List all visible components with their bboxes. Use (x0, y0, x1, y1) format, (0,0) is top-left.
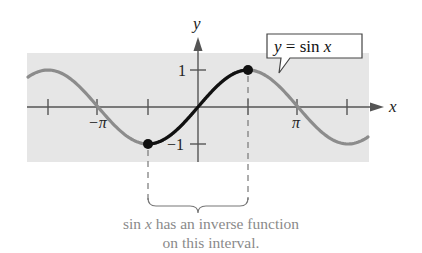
svg-text:y = sin x: y = sin x (272, 37, 332, 56)
caption-line1-rest: has an inverse function (152, 215, 299, 232)
callout-x: x (323, 37, 332, 56)
tick-label-neg-pi: −π (88, 114, 108, 131)
callout-eq: = sin (282, 37, 324, 56)
tick-label-pi: π (292, 114, 301, 131)
y-axis-label: y (191, 14, 201, 33)
caption-line2: on this interval. (163, 234, 260, 251)
tick-label-y-neg-one: −1 (167, 136, 184, 153)
callout-y: y (272, 37, 282, 56)
x-axis-arrow-icon (370, 103, 384, 112)
caption-x: x (145, 215, 152, 232)
caption: sin x has an inverse function on this in… (0, 214, 422, 252)
tick-label-y-one: 1 (178, 62, 186, 79)
endpoint-min-dot (143, 139, 153, 149)
endpoint-max-dot (243, 65, 253, 75)
y-axis-arrow-icon (194, 37, 203, 51)
caption-sin: sin (123, 215, 145, 232)
x-axis-label: x (388, 97, 397, 116)
interval-brace (148, 198, 248, 213)
